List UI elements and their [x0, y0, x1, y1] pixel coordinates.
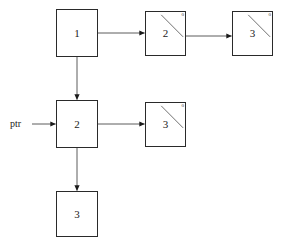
node-box-mid-3[interactable]: 3 0: [145, 102, 186, 147]
linked-list-diagram: ptr 1 2 0 3 0 2 3 0 3: [0, 0, 285, 247]
node-box-mid-2[interactable]: 2: [56, 100, 98, 148]
node-value: 2: [74, 119, 80, 130]
null-marker-label: 0: [182, 103, 185, 108]
pointer-label-ptr: ptr: [10, 119, 21, 129]
node-box-top-3[interactable]: 3 0: [232, 11, 273, 56]
node-box-bottom-3[interactable]: 3: [56, 191, 98, 237]
node-box-top-2[interactable]: 2 0: [145, 11, 186, 56]
node-value: 3: [163, 119, 169, 130]
node-value: 1: [74, 28, 80, 39]
node-box-top-1[interactable]: 1: [56, 9, 98, 57]
null-marker-label: 0: [182, 12, 185, 17]
node-value: 3: [74, 209, 80, 220]
node-value: 2: [163, 28, 169, 39]
node-value: 3: [250, 28, 256, 39]
null-marker-label: 0: [269, 12, 272, 17]
